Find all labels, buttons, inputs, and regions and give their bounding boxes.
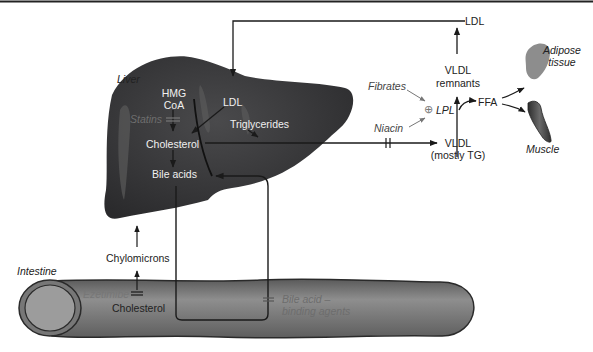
vldl-remnants-label-line1: VLDL — [437, 64, 479, 76]
ldl-return-arrow — [233, 21, 465, 76]
intestine-label: Intestine — [17, 265, 57, 277]
niacin-label: Niacin — [374, 122, 403, 134]
bile-acids-label: Bile acids — [152, 168, 197, 180]
hmg-coa-label-line2: CoA — [160, 99, 188, 111]
vldl-label-line2: (mostly TG) — [424, 149, 492, 161]
muscle-label: Muscle — [526, 143, 559, 155]
bile-acid-binding-label-line2: binding agents — [282, 305, 350, 317]
adipose-label-line1: Adipose — [538, 44, 586, 56]
liver-label: Liver — [117, 73, 140, 85]
lpl-stimulate-icon: ⊕ — [424, 103, 433, 115]
lpl-label: LPL — [436, 104, 455, 116]
ffa-label: FFA — [478, 96, 497, 108]
vldl-label-line1: VLDL — [437, 137, 479, 149]
cholesterol-liver-label: Cholesterol — [146, 138, 199, 150]
hmg-coa-label-line1: HMG — [160, 87, 188, 99]
liver-shape — [104, 56, 353, 218]
ezetimibe-label: Ezetimibe — [83, 288, 129, 300]
ffa-to-muscle-arrow — [502, 104, 525, 112]
fibrates-label: Fibrates — [368, 80, 406, 92]
statins-label: Statins — [130, 113, 162, 125]
triglycerides-label: Triglycerides — [230, 118, 289, 130]
bile-acid-binding-label-line1: Bile acid – — [282, 293, 330, 305]
fibrates-arrow — [407, 90, 425, 101]
cholesterol-intestine-label: Cholesterol — [112, 302, 165, 314]
liver-ldl-label: LDL — [223, 96, 242, 108]
chylomicrons-label: Chylomicrons — [106, 252, 170, 264]
muscle-shape — [528, 101, 551, 142]
ldl-plasma-label: LDL — [465, 15, 484, 27]
vldl-remnants-label-line2: remnants — [432, 77, 484, 89]
ffa-to-adipose-arrow — [502, 88, 524, 98]
adipose-label-line2: tissue — [538, 56, 586, 68]
lpl-to-ffa-arrow — [459, 101, 476, 110]
niacin-arrow — [409, 118, 425, 127]
